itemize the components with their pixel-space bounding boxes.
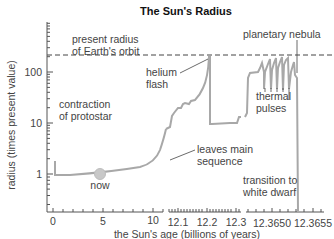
now-marker: [95, 169, 106, 180]
x-tick-10: 10: [147, 214, 159, 226]
x-tick-12.3655: 12.3655: [294, 217, 332, 229]
helium-flash-pointer: [180, 59, 208, 73]
y-axis-label: radius (times present value): [5, 60, 17, 190]
protostar-label-line1: contraction: [59, 98, 111, 110]
x-tick-5: 5: [100, 215, 106, 227]
helium-flash-label-line2: flash: [146, 78, 168, 90]
white-dwarf-label-line1: transition to: [243, 174, 297, 186]
x-axis-label: the Sun's age (billions of years): [114, 228, 260, 239]
y-tick-10: 10: [30, 117, 42, 129]
orbit-label-line2: of Earth's orbit: [72, 45, 139, 57]
x-tick-12.1: 12.1: [168, 216, 189, 228]
x-axis-segment-1: [47, 208, 163, 212]
chart-canvas: 100 10 1 radius (times present value): [0, 0, 334, 239]
leaves-main-sequence-label-line2: sequence: [197, 155, 243, 167]
y-axis: [47, 22, 53, 212]
helium-flash-label-line1: helium: [146, 66, 177, 78]
now-label: now: [90, 179, 110, 191]
thermal-pulses-label-line1: thermal: [256, 90, 291, 102]
y-tick-1: 1: [36, 168, 42, 180]
x-axis-segment-2: [169, 208, 241, 212]
protostar-label-line2: of protostar: [59, 110, 113, 122]
white-dwarf-label-line2: white dwarf: [242, 186, 296, 198]
thermal-pulses-label-line2: pulses: [256, 102, 286, 114]
x-axis-segment-3: [246, 208, 324, 212]
orbit-label-line1: present radius: [72, 33, 139, 45]
y-tick-100: 100: [24, 66, 42, 78]
leaves-main-sequence-pointer: [170, 150, 195, 160]
x-tick-0: 0: [50, 215, 56, 227]
radius-curve-segment-1: [55, 129, 166, 175]
leaves-main-sequence-label-line1: leaves main: [197, 143, 253, 155]
planetary-nebula-label: planetary nebula: [243, 28, 321, 40]
x-tick-12.3: 12.3: [226, 216, 247, 228]
radius-curve-segment-2: [166, 57, 241, 129]
x-tick-12.2: 12.2: [197, 216, 218, 228]
